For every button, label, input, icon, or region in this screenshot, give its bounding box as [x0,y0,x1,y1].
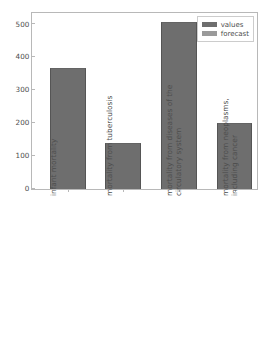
x-tick-mark [123,189,124,192]
legend: values forecast [197,16,254,42]
y-tick-mark [32,89,35,90]
x-tick-mark [68,189,69,192]
legend-entry-forecast[interactable]: forecast [202,29,249,38]
y-tick-200: 200 [15,118,32,127]
y-tick-mark [32,56,35,57]
bar-chart-figure: 500 400 300 200 100 0 [0,0,266,342]
y-tick-0: 0 [25,184,32,193]
legend-label-forecast: forecast [221,30,249,38]
y-tick-mark [32,155,35,156]
y-tick-mark [32,23,35,24]
y-tick-500: 500 [15,19,32,28]
legend-swatch-values [202,22,217,28]
y-tick-label: 500 [15,19,32,28]
legend-entry-values[interactable]: values [202,20,249,29]
y-tick-label: 200 [15,118,32,127]
y-tick-mark [32,188,35,189]
y-tick-label: 400 [15,52,32,61]
y-tick-label: 100 [15,151,32,160]
legend-swatch-forecast [202,31,217,37]
y-tick-mark [32,122,35,123]
y-tick-label: 300 [15,85,32,94]
y-tick-label: 0 [25,184,32,193]
y-tick-400: 400 [15,52,32,61]
y-tick-300: 300 [15,85,32,94]
y-tick-100: 100 [15,151,32,160]
legend-label-values: values [221,21,244,29]
